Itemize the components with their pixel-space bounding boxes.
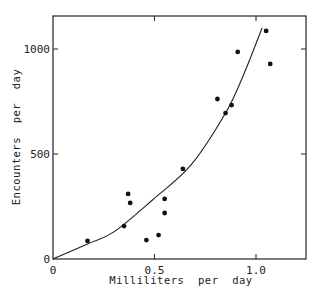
data-point bbox=[156, 233, 161, 238]
data-point bbox=[144, 238, 149, 243]
x-axis-ticks: 00.51.0 bbox=[50, 16, 266, 277]
plot-frame bbox=[53, 16, 306, 259]
y-axis-label: Encounters per day bbox=[10, 69, 22, 205]
data-point bbox=[181, 167, 186, 172]
data-point bbox=[264, 29, 269, 34]
data-point bbox=[122, 224, 127, 229]
data-point bbox=[235, 50, 240, 55]
chart: 00.51.0 05001000 Milliliters per day Enc… bbox=[0, 0, 322, 302]
y-tick-label: 500 bbox=[30, 148, 50, 161]
y-tick-label: 0 bbox=[43, 253, 50, 266]
x-tick-label: 0 bbox=[50, 264, 57, 277]
fitted-curve-layer bbox=[53, 28, 262, 259]
data-point bbox=[128, 201, 133, 206]
fitted-curve bbox=[53, 28, 262, 259]
data-point bbox=[126, 192, 131, 197]
data-point bbox=[229, 103, 234, 108]
data-point bbox=[223, 111, 228, 116]
plot-border bbox=[53, 16, 306, 259]
y-axis-ticks: 05001000 bbox=[24, 43, 307, 266]
data-point bbox=[215, 97, 220, 102]
y-tick-label: 1000 bbox=[24, 43, 51, 56]
scatter-points bbox=[85, 29, 272, 244]
data-point bbox=[85, 239, 90, 244]
data-point bbox=[268, 62, 273, 67]
x-axis-label: Milliliters per day bbox=[109, 274, 252, 286]
data-point bbox=[162, 197, 167, 202]
data-point bbox=[162, 211, 167, 216]
